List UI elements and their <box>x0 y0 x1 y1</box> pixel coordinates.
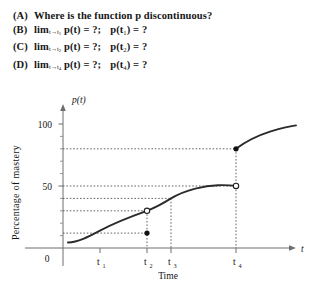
question-item-b: (B)limt→t1 p(t) = ?;p(t1) = ? <box>13 23 308 41</box>
y-tick-label-50: 50 <box>43 182 53 192</box>
x-tick-label-t2-sub: 2 <box>150 262 153 269</box>
limit-operator-c: lim <box>34 41 49 52</box>
x-tick-label-t4-base: t <box>233 257 236 267</box>
limit-subscript-d: t→t <box>49 63 59 70</box>
x-tick-label-t2-base: t <box>144 257 147 267</box>
question-item-d: (D)limt→t4 p(t) = ?;p(t4) = ? <box>13 58 308 76</box>
open-circle-t4-limit <box>233 183 238 188</box>
x-tick-label-t3-base: t <box>168 257 171 267</box>
x-axis <box>25 245 296 253</box>
x-tick-label-t3: t 3 <box>168 257 177 269</box>
value-suffix-c: ) = ? <box>127 41 147 52</box>
question-list: (A)Where is the function p discontinuous… <box>13 9 308 75</box>
limit-subscript-index-c: 2 <box>59 48 61 53</box>
x-axis-title: Time <box>158 271 178 281</box>
curve-lower-branch <box>68 211 147 243</box>
endpoint-markers <box>144 146 238 236</box>
x-axis-arrow <box>289 245 296 251</box>
question-tag-d: (D) <box>13 58 34 72</box>
y-tick-label-100: 100 <box>38 120 53 130</box>
x-tick-label-t1-base: t <box>97 257 100 267</box>
question-item-c: (C)limt→t2 p(t) = ?;p(t2) = ? <box>13 40 308 58</box>
x-tick-label-t2: t 2 <box>144 257 153 269</box>
value-expression-c: p(t <box>110 41 123 52</box>
y-axis <box>59 104 66 266</box>
question-tag-b: (B) <box>13 23 34 37</box>
curve-middle-branch <box>147 185 236 211</box>
question-tag-a: (A) <box>13 9 34 23</box>
limit-expression-b: p(t) = ?; <box>64 24 101 35</box>
value-expression-d: p(t <box>110 59 123 70</box>
filled-dot-t4-value <box>233 146 238 151</box>
mastery-graph-figure: p(t) t 0 100 50 t 1 t 2 t 3 t 4 Time Per… <box>0 88 317 282</box>
x-tick-label-t4-sub: 4 <box>239 262 242 269</box>
y-axis-arrow <box>60 104 66 111</box>
x-tick-label-t3-sub: 3 <box>174 262 177 269</box>
x-tick-label-t4: t 4 <box>233 257 242 269</box>
limit-subscript-b: t→t <box>49 28 59 35</box>
x-tick-label-t1: t 1 <box>97 257 106 269</box>
limit-subscript-index-d: 4 <box>59 66 61 71</box>
question-tag-c: (C) <box>13 40 34 54</box>
question-text-a: Where is the function p discontinuous? <box>34 10 212 21</box>
y-axis-symbol-label: p(t) <box>71 95 86 106</box>
curve-upper-branch <box>236 125 296 148</box>
limit-operator-d: lim <box>34 59 49 70</box>
limit-expression-d: p(t) = ?; <box>64 59 101 70</box>
limit-expression-c: p(t) = ?; <box>64 41 101 52</box>
limit-operator-b: lim <box>34 24 49 35</box>
graph-svg: p(t) t 0 100 50 t 1 t 2 t 3 t 4 Time Per… <box>0 88 317 282</box>
value-suffix-b: ) = ? <box>127 24 147 35</box>
value-suffix-d: ) = ? <box>127 59 147 70</box>
limit-subscript-c: t→t <box>49 46 59 53</box>
limit-subscript-index-b: 1 <box>59 31 61 36</box>
value-expression-b: p(t <box>110 24 123 35</box>
x-axis-symbol-label: t <box>301 244 304 254</box>
filled-dot-t2-value <box>144 231 149 236</box>
curve-branches <box>68 125 296 242</box>
x-tick-label-t1-sub: 1 <box>103 262 106 269</box>
question-item-a: (A)Where is the function p discontinuous… <box>13 9 308 23</box>
origin-label: 0 <box>45 254 50 264</box>
open-circle-t2-limit <box>144 208 149 213</box>
y-axis-title: Percentage of mastery <box>10 145 21 240</box>
